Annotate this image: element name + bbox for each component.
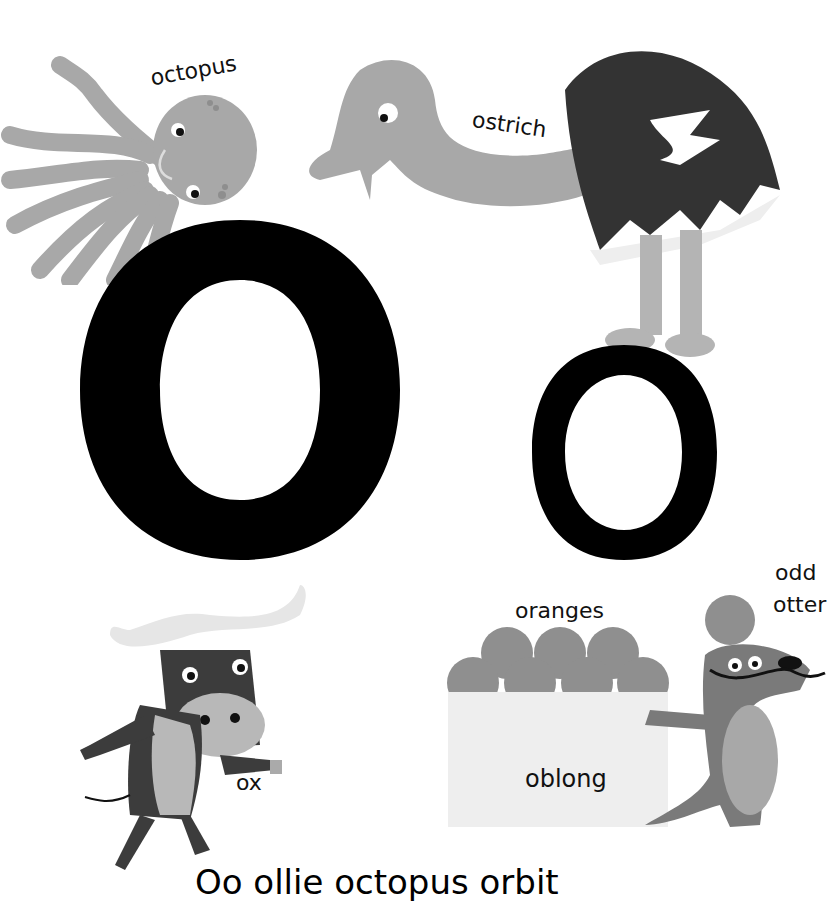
odd-otter-illustration — [640, 595, 839, 845]
oranges-label: oranges — [515, 598, 604, 623]
lowercase-letter-o — [532, 345, 717, 560]
oblong-label: oblong — [525, 765, 607, 793]
ox-illustration — [60, 575, 320, 875]
page-caption: Oo ollie octopus orbit — [195, 862, 559, 902]
odd-label: odd — [775, 560, 816, 585]
otter-label: otter — [773, 592, 826, 617]
ox-label: ox — [236, 770, 262, 795]
oblong-box — [448, 692, 668, 827]
uppercase-letter-o — [80, 220, 400, 560]
